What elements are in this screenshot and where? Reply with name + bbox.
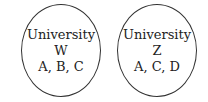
circle-name: W [54, 43, 67, 59]
circle-title: University [123, 27, 191, 43]
circle-members: A, C, D [134, 59, 180, 75]
circle-members: A, B, C [38, 59, 83, 75]
university-w-circle: University W A, B, C [21, 4, 101, 97]
circle-title: University [27, 27, 95, 43]
circle-name: Z [152, 43, 161, 59]
university-z-circle: University Z A, C, D [117, 4, 197, 97]
